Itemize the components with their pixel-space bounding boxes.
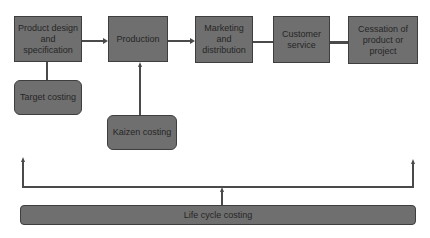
- bracket-horizontal: [22, 186, 412, 188]
- stage-label: Production: [116, 34, 159, 45]
- stage-cessation: Cessation of product or project: [348, 16, 418, 64]
- bracket-right: [412, 164, 414, 188]
- stage-marketing-distribution: Marketing and distribution: [195, 16, 253, 63]
- target-costing-label: Target costing: [20, 92, 76, 103]
- connector-kaizen: [139, 66, 141, 115]
- kaizen-costing-label: Kaizen costing: [113, 127, 172, 138]
- arrow-up-icon: [138, 62, 142, 67]
- arrow-right-icon: [190, 38, 195, 44]
- kaizen-costing-box: Kaizen costing: [107, 115, 177, 150]
- stage-label: Product design and specification: [15, 23, 81, 56]
- arrow-right-icon: [103, 38, 108, 44]
- connector-4-5: [330, 41, 348, 44]
- stage-label: Cessation of product or project: [349, 24, 417, 57]
- bracket-stem: [221, 190, 223, 205]
- stage-customer-service: Customer service: [273, 16, 330, 63]
- stage-production: Production: [108, 16, 168, 62]
- target-costing-box: Target costing: [14, 80, 82, 115]
- life-cycle-costing-label: Life cycle costing: [184, 210, 253, 220]
- stage-label: Customer service: [274, 29, 329, 51]
- arrow-up-icon: [220, 187, 224, 192]
- stage-label: Marketing and distribution: [196, 23, 252, 56]
- connector-target: [46, 62, 48, 80]
- arrow-up-icon: [411, 159, 415, 164]
- connector-1-2: [82, 40, 103, 42]
- arrow-up-icon: [21, 157, 25, 162]
- bracket-left: [22, 162, 24, 188]
- connector-3-4: [253, 41, 273, 43]
- stage-product-design: Product design and specification: [14, 16, 82, 62]
- life-cycle-costing-bar: Life cycle costing: [20, 205, 416, 225]
- connector-2-3: [168, 40, 190, 42]
